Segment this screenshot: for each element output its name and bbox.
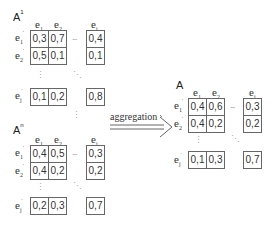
cell: 0,4 [30,162,49,180]
matrices-vertical-ellipsis: ⋮ [72,110,81,120]
cell: 0,2 [86,162,105,180]
cell: 0,1 [86,47,105,65]
cell: 0,2 [206,115,225,133]
row-label-e1: e1' [15,146,24,160]
cell: 0,2 [30,197,49,215]
cell: 0,2 [48,88,67,106]
cell: 0,5 [30,47,49,65]
diagonal-ellipsis: ⋱ [231,134,240,144]
row-label-e1: e1' [15,31,24,45]
horizontal-ellipsis: ... [72,32,77,42]
cell: 0,4 [188,98,207,116]
row-label-e2: e2' [15,49,24,63]
vertical-ellipsis: ⋮ [36,70,45,80]
aggregation-arrow-icon [108,114,174,140]
row-label-ej: ej' [15,89,22,103]
vertical-ellipsis: ⋮ [36,182,45,192]
cell: 0,3 [30,30,49,48]
cell: 0,7 [243,151,262,169]
vertical-ellipsis: ⋮ [194,135,203,145]
cell: 0,4 [86,30,105,48]
cell: 0,5 [48,145,67,163]
cell: 0,3 [243,98,262,116]
matrix-aggregated-title: A [176,79,183,91]
horizontal-ellipsis: ... [72,147,77,157]
cell: 0,3 [48,197,67,215]
diagonal-ellipsis: ⋱ [73,181,82,191]
cell: 0,4 [188,115,207,133]
cell: 0,3 [86,145,105,163]
cell: 0,4 [30,145,49,163]
matrix-an-title: An [13,124,24,136]
cell: 0,8 [86,88,105,106]
row-label-ej: ej' [15,199,22,213]
cell: 0,1 [30,88,49,106]
cell: 0,2 [48,162,67,180]
cell: 0,7 [48,30,67,48]
matrix-a1-title: A1 [13,11,24,23]
cell: 0,6 [206,98,225,116]
cell: 0,7 [86,197,105,215]
row-label-e2: e2' [174,117,183,131]
row-label-e2: e2' [15,164,24,178]
horizontal-ellipsis: ... [230,100,235,110]
row-label-ej: ej' [174,153,181,167]
diagonal-ellipsis: ⋱ [73,70,82,80]
row-label-e1: e1' [174,99,183,113]
cell: 0,3 [206,151,225,169]
cell: 0,1 [188,151,207,169]
cell: 0,2 [243,115,262,133]
cell: 0,1 [48,47,67,65]
